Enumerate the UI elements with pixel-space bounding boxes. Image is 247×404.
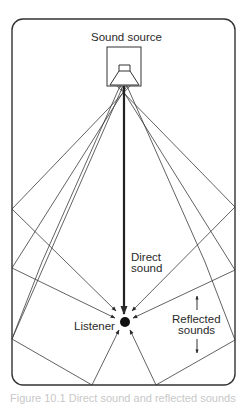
listener-dot — [120, 317, 130, 327]
speaker-horn-icon — [110, 65, 139, 85]
figure-caption: Figure 10.1 Direct sound and reflected s… — [10, 392, 236, 404]
listener-label: Listener — [74, 320, 115, 332]
direct-sound-label-2: sound — [131, 262, 162, 274]
sound-source-label: Sound source — [91, 31, 162, 43]
reflected-sounds-label-2: sounds — [178, 324, 215, 336]
